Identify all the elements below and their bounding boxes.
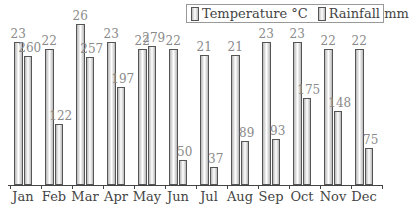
month-label: May	[132, 189, 163, 204]
rainfall-value-label: 257	[77, 42, 107, 56]
rainfall-value-label: 175	[294, 83, 324, 97]
temperature-bar	[293, 42, 302, 185]
temperature-value-label: 21	[220, 40, 250, 54]
rainfall-bar	[55, 124, 64, 185]
rainfall-value-label: 148	[325, 96, 355, 110]
temperature-swatch-icon	[191, 7, 199, 21]
rainfall-bar	[148, 46, 157, 185]
rainfall-swatch-icon	[318, 7, 326, 21]
rainfall-bar	[365, 148, 374, 185]
legend-item-temperature: Temperature °C	[191, 6, 308, 21]
month-label: Oct	[287, 189, 318, 204]
month-label: Jun	[163, 189, 194, 204]
rainfall-bar	[117, 87, 126, 185]
month-label: Aug	[225, 189, 256, 204]
rainfall-bar	[272, 139, 281, 185]
month-label: Jan	[8, 189, 39, 204]
x-axis	[8, 185, 383, 186]
temperature-value-label: 22	[313, 34, 343, 48]
rainfall-bar	[24, 56, 33, 185]
temperature-value-label: 23	[251, 27, 281, 41]
month-label: Apr	[101, 189, 132, 204]
rainfall-value-label: 50	[170, 145, 200, 159]
month-label: Mar	[70, 189, 101, 204]
rainfall-value-label: 37	[201, 152, 231, 166]
month-label: Sep	[256, 189, 287, 204]
rainfall-bar	[303, 98, 312, 185]
temperature-bar	[169, 49, 178, 185]
temperature-bar	[355, 49, 364, 185]
month-label: Nov	[318, 189, 349, 204]
temperature-value-label: 22	[34, 34, 64, 48]
month-label: Jul	[194, 189, 225, 204]
rainfall-value-label: 89	[232, 126, 262, 140]
temperature-value-label: 21	[189, 40, 219, 54]
temperature-bar	[14, 42, 23, 185]
rainfall-bar	[179, 160, 188, 185]
rainfall-value-label: 75	[356, 133, 386, 147]
rainfall-bar	[241, 141, 250, 185]
rainfall-bar	[210, 167, 219, 185]
legend-item-rainfall: Rainfall mm	[318, 6, 409, 21]
temperature-bar	[231, 55, 240, 185]
month-label: Dec	[349, 189, 380, 204]
temperature-bar	[262, 42, 271, 185]
temperature-value-label: 22	[158, 34, 188, 48]
temperature-bar	[138, 49, 147, 185]
rainfall-bar	[86, 57, 95, 185]
temperature-value-label: 23	[96, 27, 126, 41]
temperature-bar	[324, 49, 333, 185]
temperature-value-label: 22	[344, 34, 374, 48]
temperature-value-label: 23	[282, 27, 312, 41]
legend-label-rainfall: Rainfall mm	[329, 6, 409, 21]
temperature-bar	[107, 42, 116, 185]
legend-label-temperature: Temperature °C	[202, 6, 308, 21]
temperature-value-label: 26	[65, 9, 95, 23]
temperature-value-label: 23	[3, 27, 33, 41]
rainfall-value-label: 197	[108, 72, 138, 86]
rainfall-value-label: 93	[263, 124, 293, 138]
rainfall-bar	[334, 111, 343, 185]
month-label: Feb	[39, 189, 70, 204]
legend: Temperature °C Rainfall mm	[186, 4, 384, 23]
rainfall-value-label: 122	[46, 109, 76, 123]
